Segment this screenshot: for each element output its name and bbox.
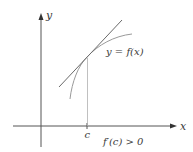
- y-axis: [39, 13, 44, 147]
- x-axis-arrow-icon: [170, 124, 177, 129]
- x-axis-label: x: [180, 120, 187, 133]
- y-axis-label: y: [45, 9, 53, 22]
- curve-label: y = f(x): [105, 46, 144, 57]
- c-label: c: [85, 129, 91, 140]
- x-axis: [13, 124, 177, 129]
- function-curve: [70, 34, 132, 99]
- tangent-diagram: y x y = f(x) c f′(c) > 0: [0, 0, 193, 152]
- condition-label: f′(c) > 0: [102, 136, 144, 147]
- y-axis-arrow-icon: [39, 13, 44, 20]
